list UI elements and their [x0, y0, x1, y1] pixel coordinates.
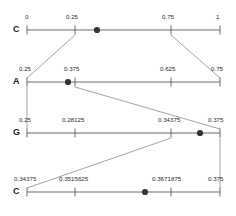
connector-line-4 — [27, 138, 171, 188]
row-symbol-label-2: G — [13, 128, 20, 137]
tick-value-label-2-2: 0.34375 — [158, 117, 180, 123]
tick-value-label-0-0: 0 — [25, 14, 28, 20]
tick-value-label-0-1: 0.25 — [66, 14, 78, 20]
tick-value-label-2-0: 0.25 — [19, 117, 31, 123]
marker-dot-row-3 — [142, 189, 148, 195]
row-symbol-label-3: C — [13, 187, 20, 196]
marker-dot-row-0 — [94, 27, 100, 33]
tick-value-label-2-3: 0.375 — [208, 117, 223, 123]
tick-value-label-3-3: 0.375 — [208, 176, 223, 182]
tick-value-label-1-2: 0.625 — [160, 66, 175, 72]
tick-value-label-1-1: 0.375 — [64, 66, 79, 72]
row-symbol-label-0: C — [13, 25, 20, 34]
tick-value-label-3-2: 0.3671875 — [152, 176, 181, 182]
tick-value-label-3-1: 0.3515625 — [59, 176, 88, 182]
tick-value-label-3-0: 0.34375 — [14, 176, 36, 182]
tick-value-label-0-2: 0.75 — [162, 14, 174, 20]
marker-dot-row-1 — [65, 79, 71, 85]
interval-subdivision-diagram: C00.250.751A0.250.3750.6250.75G0.250.281… — [0, 0, 236, 216]
tick-value-label-0-3: 1 — [216, 14, 219, 20]
diagram-canvas — [0, 0, 236, 216]
marker-dot-row-2 — [197, 130, 203, 136]
row-symbol-label-1: A — [13, 77, 20, 86]
tick-value-label-1-0: 0.25 — [19, 66, 31, 72]
connector-line-3 — [75, 87, 220, 129]
tick-value-label-2-1: 0.28125 — [62, 117, 84, 123]
tick-value-label-1-3: 0.75 — [211, 66, 223, 72]
